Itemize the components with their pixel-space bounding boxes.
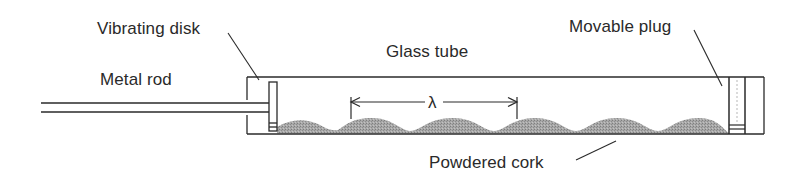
kundts-tube-diagram: Vibrating disk Metal rod Glass tube Mova…	[0, 0, 804, 181]
metal-rod-label: Metal rod	[100, 71, 172, 88]
movable-plug-label: Movable plug	[569, 18, 671, 35]
vibrating-disk-leader	[228, 33, 259, 80]
glass-tube-label: Glass tube	[386, 43, 468, 60]
powdered-cork-leader	[576, 141, 616, 160]
vibrating-disk-label: Vibrating disk	[97, 20, 200, 37]
leader-lines	[228, 30, 722, 160]
metal-rod	[41, 103, 269, 112]
wavelength-symbol: λ	[425, 94, 440, 111]
powdered-cork-heaps	[277, 118, 729, 134]
vibrating-disk	[269, 82, 277, 131]
powdered-cork-label: Powdered cork	[429, 154, 544, 171]
movable-plug	[729, 77, 745, 134]
